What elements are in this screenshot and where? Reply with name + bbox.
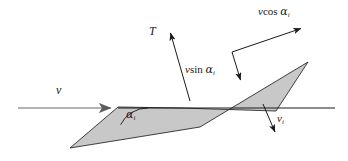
label-inflow-velocity: v — [56, 84, 61, 96]
label-tangential-component: vcos αi — [258, 6, 290, 19]
velocity-diagram: v T vsin αi vcos αi αi vi — [0, 0, 348, 161]
normal-component-subscript: i — [213, 69, 215, 76]
tangential-component-function: cos — [263, 5, 278, 17]
thrust-symbol: T — [149, 24, 156, 38]
label-induced-velocity: vi — [277, 113, 284, 126]
normal-component-angle: α — [205, 63, 212, 76]
angle-of-attack-subscript: i — [133, 114, 135, 121]
normal-component-arrow — [232, 52, 241, 80]
diagram-canvas — [0, 0, 348, 161]
label-angle-of-attack: αi — [126, 109, 135, 122]
tangential-component-arrow — [232, 29, 301, 53]
label-thrust: T — [149, 25, 156, 37]
tangential-component-subscript: i — [288, 11, 290, 18]
normal-component-function: sin — [190, 63, 203, 75]
label-normal-component: vsin αi — [185, 64, 215, 77]
inflow-velocity-symbol: v — [56, 83, 61, 97]
induced-velocity-subscript: i — [282, 118, 284, 125]
tangential-component-angle: α — [280, 5, 287, 18]
